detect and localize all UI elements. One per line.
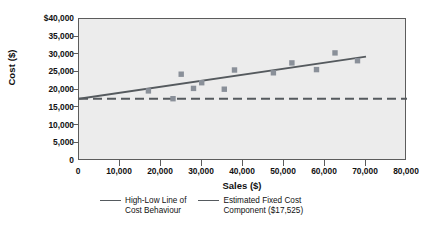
- legend-line-icon: [100, 196, 121, 205]
- x-tick-label-20000: 20,000: [137, 167, 183, 176]
- y-axis-title: Cost ($): [6, 33, 17, 103]
- plot-svg: [79, 19, 407, 161]
- data-point: [146, 88, 151, 93]
- x-axis-title: Sales ($): [78, 180, 406, 191]
- data-point-markers: [146, 50, 360, 101]
- data-point: [222, 87, 227, 92]
- data-point: [314, 67, 319, 72]
- x-tick-label-80000: 80,000: [383, 167, 429, 176]
- y-axis-tick-labels: $40,000 35,000 30,000 25,000 20,000 15,0…: [18, 0, 74, 233]
- high-low-line: [79, 57, 366, 99]
- data-point: [271, 70, 276, 75]
- data-point: [179, 72, 184, 77]
- legend-item-estimated-fixed-cost: Estimated Fixed Cost Component ($17,525): [198, 196, 303, 216]
- y-tick-label-35000: 35,000: [18, 32, 74, 40]
- y-tick-label-40000: $40,000: [18, 14, 74, 22]
- y-tick-label-20000: 20,000: [18, 85, 74, 93]
- cost-behaviour-chart: Cost ($) $40,000 35,000 30,000 25,000 20…: [0, 0, 433, 233]
- y-tick-label-0: 0: [18, 156, 74, 164]
- legend-item-label: Estimated Fixed Cost Component ($17,525): [223, 196, 303, 216]
- y-tick-label-15000: 15,000: [18, 103, 74, 111]
- x-axis-tick-labels: 0 10,000 20,000 30,000 40,000 50,000 60,…: [0, 167, 433, 181]
- x-tick-label-70000: 70,000: [342, 167, 388, 176]
- chart-legend: High-Low Line of Cost Behaviour Estimate…: [100, 196, 390, 216]
- data-point: [289, 60, 294, 65]
- x-tick-label-60000: 60,000: [301, 167, 347, 176]
- x-tick-label-40000: 40,000: [219, 167, 265, 176]
- y-tick-label-30000: 30,000: [18, 50, 74, 58]
- legend-item-high-low-line: High-Low Line of Cost Behaviour: [100, 196, 186, 216]
- y-tick-label-5000: 5,000: [18, 138, 74, 146]
- data-point: [191, 86, 196, 91]
- x-tick-label-50000: 50,000: [260, 167, 306, 176]
- x-tick-label-10000: 10,000: [96, 167, 142, 176]
- data-point: [355, 58, 360, 63]
- y-tick-label-10000: 10,000: [18, 121, 74, 129]
- data-point: [332, 50, 337, 55]
- data-point: [170, 96, 175, 101]
- y-tick-label-25000: 25,000: [18, 67, 74, 75]
- legend-line-icon: [198, 196, 219, 205]
- data-point: [232, 67, 237, 72]
- data-point: [199, 80, 204, 85]
- plot-area: [78, 18, 406, 160]
- x-tick-label-0: 0: [55, 167, 101, 176]
- x-tick-label-30000: 30,000: [178, 167, 224, 176]
- legend-item-label: High-Low Line of Cost Behaviour: [125, 196, 186, 216]
